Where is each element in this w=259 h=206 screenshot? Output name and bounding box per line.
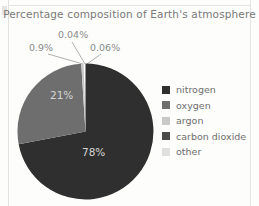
legend-swatch-icon-other bbox=[162, 148, 170, 156]
legend-label-oxygen: oxygen bbox=[176, 101, 211, 111]
pie-chart-figure: Percentage composition of Earth's atmosp… bbox=[0, 0, 259, 206]
legend-item-nitrogen: nitrogen bbox=[162, 82, 246, 98]
legend-label-other: other bbox=[176, 147, 201, 157]
slice-label-oxygen: 21% bbox=[50, 89, 73, 101]
pie-graphic bbox=[17, 63, 154, 200]
legend-label-nitrogen: nitrogen bbox=[176, 85, 216, 95]
slice-label-nitrogen: 78% bbox=[82, 146, 105, 158]
pie-slice-oxygen bbox=[17, 64, 85, 145]
legend-item-oxygen: oxygen bbox=[162, 98, 246, 114]
chart-legend: nitrogen oxygen argon carbon dioxide oth… bbox=[162, 82, 246, 160]
legend-item-other: other bbox=[162, 144, 246, 160]
legend-label-carbon-dioxide: carbon dioxide bbox=[176, 132, 246, 142]
legend-swatch-icon-nitrogen bbox=[162, 86, 170, 94]
legend-item-carbon-dioxide: carbon dioxide bbox=[162, 129, 246, 145]
legend-label-argon: argon bbox=[176, 116, 203, 126]
legend-swatch-icon-oxygen bbox=[162, 101, 170, 109]
legend-swatch-icon-carbon-dioxide bbox=[162, 132, 170, 140]
legend-item-argon: argon bbox=[162, 113, 246, 129]
legend-swatch-icon-argon bbox=[162, 117, 170, 125]
